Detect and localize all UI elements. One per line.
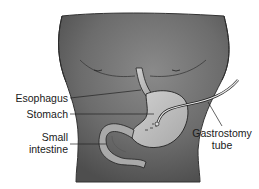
label-gastrostomy-1: Gastrostomy	[186, 127, 258, 139]
label-stomach: Stomach	[6, 108, 68, 120]
gastrostomy-diagram: Esophagus Stomach Small intestine Gastro…	[0, 0, 259, 189]
label-esophagus: Esophagus	[6, 92, 68, 104]
label-small-intestine-2: intestine	[6, 143, 68, 155]
torso-body	[59, 13, 229, 182]
leader-gastrostomy	[208, 102, 222, 126]
label-gastrostomy-2: tube	[186, 139, 258, 151]
label-small-intestine-1: Small	[6, 131, 68, 143]
tube-tip	[155, 122, 159, 126]
